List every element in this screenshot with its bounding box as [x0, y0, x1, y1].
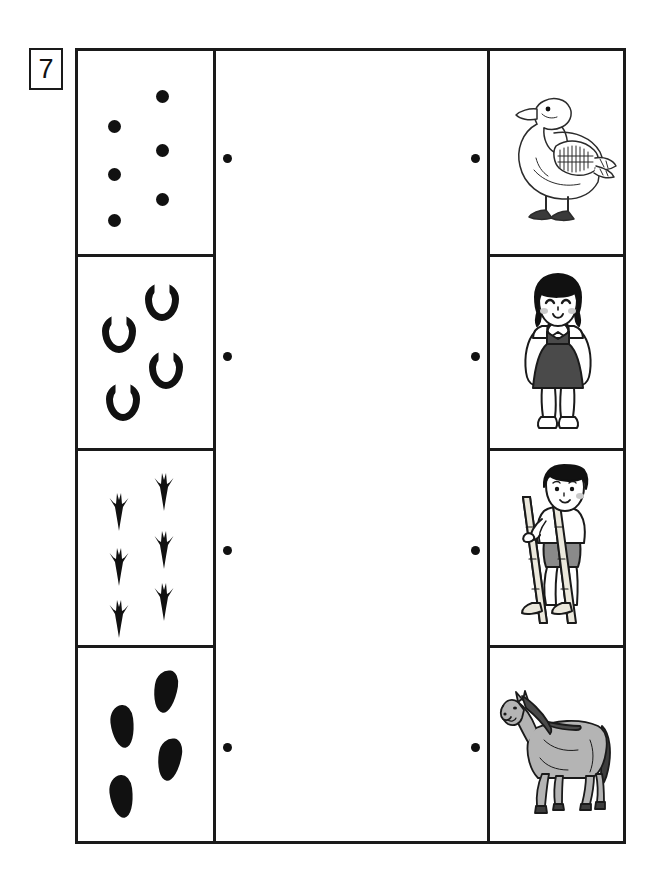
- connector-dot-right-row-2[interactable]: [471, 352, 480, 361]
- count-mark-horseshoe: [149, 351, 183, 389]
- exercise-number: 7: [38, 56, 53, 83]
- count-mark-horseshoe: [102, 315, 136, 353]
- count-mark-bird-track: [106, 546, 132, 586]
- bird-track-icon: [106, 546, 132, 586]
- count-mark-bird-track: [106, 491, 132, 531]
- connector-dot-left-row-1[interactable]: [223, 154, 232, 163]
- picture-cell-girl: [490, 257, 626, 448]
- girl-icon: [502, 270, 614, 436]
- count-mark-bird-track: [151, 581, 177, 621]
- count-mark-shoe-print: [107, 774, 135, 819]
- count-mark-bird-track: [106, 598, 132, 638]
- marks-column: [78, 51, 213, 841]
- picture-cell-horse: [490, 648, 626, 841]
- marks-cell-dots: [78, 51, 213, 254]
- count-mark-shoe-print: [108, 704, 136, 749]
- count-mark-dot: [156, 144, 169, 157]
- worksheet-frame: [75, 48, 626, 844]
- connector-dot-right-row-1[interactable]: [471, 154, 480, 163]
- matching-column[interactable]: [216, 51, 487, 841]
- count-mark-horseshoe: [106, 383, 140, 421]
- marks-cell-horseshoes: [78, 257, 213, 448]
- exercise-number-box: 7: [29, 48, 63, 90]
- bird-track-icon: [151, 529, 177, 569]
- count-mark-shoe-print: [155, 736, 184, 782]
- pictures-column: [490, 51, 626, 841]
- boy-on-stilts-illustration: [490, 451, 626, 645]
- count-mark-horseshoe: [145, 283, 179, 321]
- count-mark-bird-track: [151, 471, 177, 511]
- horse-icon: [494, 670, 622, 820]
- bird-track-icon: [106, 598, 132, 638]
- duck-icon: [496, 78, 620, 228]
- count-mark-dot: [156, 193, 169, 206]
- boy-on-stilts-icon: [500, 463, 616, 633]
- connector-dot-left-row-2[interactable]: [223, 352, 232, 361]
- picture-cell-duck: [490, 51, 626, 254]
- picture-cell-boy-on-stilts: [490, 451, 626, 645]
- duck-illustration: [490, 51, 626, 254]
- count-mark-dot: [108, 168, 121, 181]
- count-mark-shoe-print: [151, 668, 180, 714]
- horse-illustration: [490, 648, 626, 841]
- marks-cell-bird-tracks: [78, 451, 213, 645]
- girl-illustration: [490, 257, 626, 448]
- bird-track-icon: [151, 471, 177, 511]
- count-mark-dot: [156, 90, 169, 103]
- connector-dot-right-row-3[interactable]: [471, 546, 480, 555]
- bird-track-icon: [106, 491, 132, 531]
- connector-dot-right-row-4[interactable]: [471, 743, 480, 752]
- connector-dot-left-row-4[interactable]: [223, 743, 232, 752]
- bird-track-icon: [151, 581, 177, 621]
- count-mark-dot: [108, 120, 121, 133]
- count-mark-bird-track: [151, 529, 177, 569]
- count-mark-dot: [108, 214, 121, 227]
- connector-dot-left-row-3[interactable]: [223, 546, 232, 555]
- marks-cell-shoe-prints: [78, 648, 213, 841]
